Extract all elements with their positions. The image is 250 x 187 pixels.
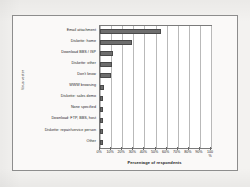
x-tick-label: 80%	[184, 150, 191, 154]
bar	[100, 118, 103, 123]
category-label: WWW browsing	[19, 80, 99, 91]
bar-chart: Virus vector Email attachmentDiskette: h…	[13, 16, 239, 172]
x-tick-label: 90%	[195, 150, 202, 154]
category-label: Diskette: home	[19, 36, 99, 47]
bar-row	[100, 104, 211, 115]
category-label: Download: FTP, BBS, host	[19, 114, 99, 125]
category-label: Download BBS / ISP	[19, 47, 99, 58]
category-axis-labels: Email attachmentDiskette: homeDownload B…	[19, 25, 99, 147]
bar	[100, 62, 112, 67]
category-label: Diskette: sales demo	[19, 92, 99, 103]
scanned-page: Virus vector Email attachmentDiskette: h…	[0, 0, 250, 187]
bar	[100, 73, 111, 78]
bar-row	[100, 70, 211, 81]
x-tick-label: 0%	[96, 150, 101, 154]
bar-row	[100, 59, 211, 70]
bar	[100, 96, 103, 101]
bar-row	[100, 81, 211, 92]
bar-row	[100, 115, 211, 126]
x-tick-label: 50%	[151, 150, 158, 154]
x-tick-label: 30%	[129, 150, 136, 154]
gridline	[211, 26, 212, 148]
x-tick-label: 10%	[106, 150, 113, 154]
x-axis-title: Percentage of respondents	[99, 160, 210, 165]
category-label: None specified	[19, 103, 99, 114]
category-label: Don't know	[19, 69, 99, 80]
plot-area	[99, 25, 212, 149]
x-tick-label: 20%	[118, 150, 125, 154]
bar-row	[100, 93, 211, 104]
bar	[100, 85, 104, 90]
category-label: Email attachment	[19, 25, 99, 36]
chart-figure: Virus vector Email attachmentDiskette: h…	[12, 15, 238, 171]
bar	[100, 29, 161, 34]
bar-row	[100, 26, 211, 37]
x-tick-label: 100%	[207, 150, 213, 159]
category-label: Diskette: other	[19, 58, 99, 69]
bar-series	[100, 26, 211, 148]
bar	[100, 51, 113, 56]
bar	[100, 40, 132, 45]
bar	[100, 140, 103, 145]
category-label: Other	[19, 136, 99, 147]
bar-row	[100, 37, 211, 48]
x-tick-label: 60%	[162, 150, 169, 154]
bar-row	[100, 48, 211, 59]
category-label: Diskette: repair/service person	[19, 125, 99, 136]
x-tick-label: 40%	[140, 150, 147, 154]
bar-row	[100, 126, 211, 137]
x-tick-label: 70%	[173, 150, 180, 154]
bar	[100, 107, 103, 112]
bar	[100, 129, 103, 134]
